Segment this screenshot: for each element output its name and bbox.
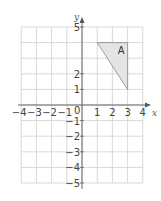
x-axis-label: x bbox=[152, 108, 157, 118]
triangle-a-label: A bbox=[118, 45, 125, 56]
y-tick-label: 1 bbox=[74, 84, 80, 95]
x-tick-label: −2 bbox=[42, 107, 57, 118]
coordinate-grid: A x y 0 −4−3−2−11234 521−1−2−3−4−5 bbox=[0, 0, 161, 201]
y-tick-label: 2 bbox=[74, 69, 80, 80]
x-tick-label: 1 bbox=[94, 107, 100, 118]
y-tick-label: −1 bbox=[65, 116, 80, 127]
x-tick-label: −3 bbox=[27, 107, 42, 118]
x-tick-label: −4 bbox=[12, 107, 27, 118]
x-tick-label: 2 bbox=[109, 107, 115, 118]
origin-label: 0 bbox=[74, 105, 80, 116]
y-axis-label: y bbox=[73, 12, 80, 22]
y-tick-label: 5 bbox=[74, 22, 80, 33]
y-tick-label: −3 bbox=[65, 147, 80, 158]
x-tick-label: 4 bbox=[140, 107, 146, 118]
y-tick-label: −4 bbox=[65, 162, 80, 173]
y-axis-arrow-icon bbox=[80, 17, 85, 23]
x-tick-label: 3 bbox=[124, 107, 130, 118]
y-tick-label: −5 bbox=[65, 178, 80, 189]
y-tick-label: −2 bbox=[65, 131, 80, 142]
